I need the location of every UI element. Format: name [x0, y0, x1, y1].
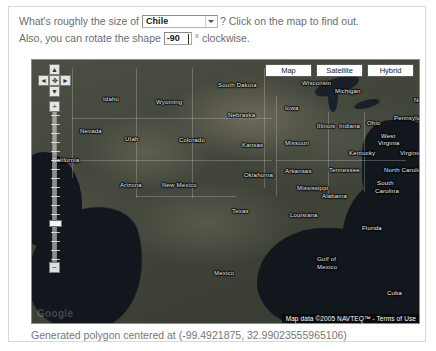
map-place-label: Idaho: [103, 96, 119, 102]
map-attribution[interactable]: Map data ©2005 NAVTEQ™ - Terms of Use: [282, 314, 419, 323]
country-select[interactable]: Chile: [142, 15, 218, 28]
map-viewport[interactable]: Map Satellite Hybrid ▲ ◄ ✥ ► ▼ +: [31, 59, 420, 324]
pan-control[interactable]: ▲ ◄ ✥ ► ▼: [38, 64, 72, 98]
map-place-label: New York: [414, 97, 420, 103]
zoom-in-icon[interactable]: +: [49, 101, 60, 112]
map-type-switcher[interactable]: Map Satellite Hybrid: [265, 64, 414, 77]
prompt-line-2-suffix: ° clockwise.: [195, 31, 250, 46]
prompt-line-2: Also, you can rotate the shape -90 ° clo…: [19, 31, 419, 46]
map-place-label: Texas: [232, 208, 249, 214]
map-place-label: Mississippi: [297, 185, 328, 191]
map-place-label: Wyoming: [156, 99, 182, 105]
lake-michigan-water: [328, 82, 338, 112]
state-border: [264, 68, 265, 188]
chevron-down-icon[interactable]: [205, 16, 217, 27]
zoom-slider-tick: [51, 151, 60, 152]
zoom-slider-tick: [51, 232, 60, 233]
map-place-label: Arizona: [120, 182, 142, 188]
state-border: [72, 118, 272, 119]
pan-left-icon[interactable]: ◄: [38, 75, 49, 86]
state-border: [276, 160, 406, 161]
map-type-button-hybrid[interactable]: Hybrid: [367, 64, 414, 77]
map-place-label: Kansas: [242, 142, 263, 148]
zoom-slider-tick: [51, 115, 60, 116]
map-place-label: Tennessee: [329, 167, 360, 173]
zoom-slider-tick: [51, 250, 60, 251]
map-place-label: Iowa: [285, 105, 298, 111]
prompt-line-2-prefix: Also, you can rotate the shape: [19, 31, 161, 46]
zoom-slider-tick: [51, 205, 60, 206]
map-place-label: Illinois: [317, 123, 335, 129]
state-border: [136, 196, 236, 197]
zoom-slider-tick: [51, 133, 60, 134]
country-select-value: Chile: [146, 14, 169, 29]
pan-center-icon[interactable]: ✥: [49, 75, 60, 86]
zoom-out-icon[interactable]: −: [49, 262, 60, 273]
zoom-slider-tick: [51, 187, 60, 188]
prompt-block: What's roughly the size of Chile ? Click…: [19, 14, 419, 46]
state-border: [192, 68, 193, 198]
page-frame: What's roughly the size of Chile ? Click…: [8, 6, 426, 342]
pan-down-icon[interactable]: ▼: [49, 86, 60, 97]
prompt-line-1-prefix: What's roughly the size of: [19, 14, 139, 29]
map-type-button-map[interactable]: Map: [265, 64, 312, 77]
zoom-slider-tick: [51, 196, 60, 197]
status-line: Generated polygon centered at (-99.49218…: [31, 329, 347, 341]
zoom-control[interactable]: + −: [49, 101, 61, 273]
map-navigation-controls[interactable]: ▲ ◄ ✥ ► ▼ + −: [38, 64, 74, 273]
state-border: [328, 112, 329, 198]
zoom-slider-tick: [51, 259, 60, 260]
state-border: [136, 68, 137, 198]
map-place-label: South Dakota: [218, 82, 257, 88]
prompt-line-1-suffix: ? Click on the map to find out.: [220, 14, 359, 29]
map-place-label: Missouri: [285, 140, 309, 146]
map-type-button-satellite[interactable]: Satellite: [316, 64, 363, 77]
google-watermark: Google: [37, 308, 73, 319]
rotation-input[interactable]: -90: [164, 32, 192, 45]
pan-up-icon[interactable]: ▲: [49, 64, 60, 75]
map-place-label: Alabama: [322, 193, 347, 199]
map-place-label: Louisiana: [290, 212, 318, 218]
zoom-slider-tick: [51, 241, 60, 242]
map-place-label: Mexico: [214, 270, 234, 276]
zoom-slider-tick: [51, 214, 60, 215]
state-border: [72, 160, 272, 161]
atlantic-ocean-water-north: [362, 120, 420, 210]
map-place-label: Nevada: [80, 128, 102, 134]
zoom-slider-tick: [51, 178, 60, 179]
zoom-slider-tick: [51, 142, 60, 143]
zoom-slider-tick: [51, 169, 60, 170]
zoom-slider-tick: [51, 223, 60, 224]
state-border: [276, 96, 277, 196]
lake-erie-water: [353, 97, 380, 111]
map-place-label: Arkansas: [285, 168, 312, 174]
pan-right-icon[interactable]: ►: [60, 75, 71, 86]
map-place-label: Oklahoma: [244, 172, 273, 178]
prompt-line-1: What's roughly the size of Chile ? Click…: [19, 14, 419, 29]
rotation-input-value: -90: [167, 31, 180, 46]
zoom-slider-tick: [51, 124, 60, 125]
zoom-slider-track[interactable]: [52, 112, 57, 262]
map-place-label: Indiana: [339, 123, 360, 129]
map-satellite-imagery[interactable]: Map Satellite Hybrid ▲ ◄ ✥ ► ▼ +: [32, 60, 419, 323]
state-border: [364, 112, 365, 192]
zoom-slider-tick: [51, 160, 60, 161]
text-caret: [188, 34, 189, 44]
